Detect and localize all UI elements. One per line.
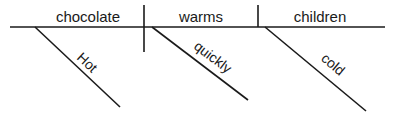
modifier-word-quickly: quickly [191, 38, 235, 77]
baseline-word-subject: chocolate [56, 8, 120, 25]
modifier-word-hot: Hot [74, 49, 101, 76]
baseline-word-object: children [294, 8, 347, 25]
sentence-diagram-canvas: chocolate warms children Hot quickly col… [0, 0, 401, 121]
sentence-diagram-svg: chocolate warms children Hot quickly col… [0, 0, 401, 121]
modifier-line-hot [35, 27, 120, 107]
baseline-word-verb: warms [178, 8, 223, 25]
modifier-line-cold [265, 27, 366, 111]
